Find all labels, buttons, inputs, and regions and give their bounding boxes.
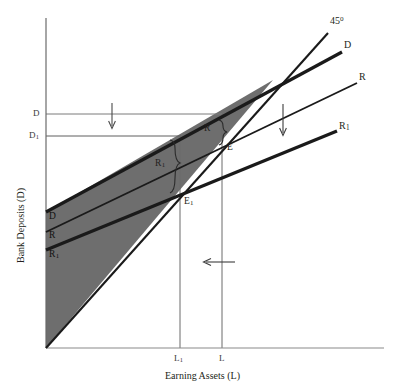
point-label-E-text: E — [227, 142, 233, 152]
brace-label-R1-subscript: 1 — [161, 161, 165, 168]
point-label-E1-text: E — [184, 196, 190, 206]
intercept-label-R1: R1 — [49, 250, 59, 260]
x-tick-L1-text: L — [174, 353, 180, 363]
y-tick-D-text: D — [33, 108, 40, 118]
y-tick-D1: D1 — [29, 131, 39, 141]
x-tick-L1: L1 — [174, 354, 183, 364]
intercept-label-D-text: D — [49, 211, 56, 221]
intercept-label-R-text: R — [49, 230, 55, 240]
arrow-left-horizontal — [204, 259, 236, 266]
point-label-E1: E1 — [184, 197, 194, 207]
brace-label-R: R — [204, 124, 210, 134]
diagram-canvas — [0, 0, 394, 391]
x-tick-L-text: L — [219, 353, 225, 363]
x-tick-L: L — [219, 354, 225, 363]
arrow-down-left — [109, 103, 116, 129]
point-label-E: E — [227, 143, 233, 153]
y-axis-label: Bank Deposits (D) — [16, 188, 26, 263]
line-label-R-text: R — [359, 71, 366, 82]
shaded-region-cone — [46, 80, 273, 348]
intercept-label-R: R — [49, 231, 55, 241]
point-label-E1-subscript: 1 — [190, 199, 194, 206]
line-label-45-degree-sign: o — [340, 15, 344, 23]
line-label-R1-text: R — [339, 120, 346, 131]
y-tick-D: D — [33, 109, 40, 118]
line-label-45-degree: 45o — [330, 16, 344, 26]
line-label-45-text: 45 — [330, 15, 340, 26]
brace-label-R-text: R — [204, 123, 210, 133]
line-label-R: R — [359, 72, 366, 82]
brace-label-R1: R1 — [155, 159, 165, 169]
line-label-R1: R1 — [339, 121, 350, 132]
y-tick-D1-subscript: 1 — [36, 133, 40, 140]
line-label-D-text: D — [344, 39, 351, 50]
x-axis-label: Earning Assets (L) — [165, 371, 240, 381]
line-label-D: D — [344, 40, 351, 50]
x-tick-L1-subscript: 1 — [180, 356, 184, 363]
economics-diagram: Bank Deposits (D) Earning Assets (L) D D… — [0, 0, 394, 391]
intercept-label-R1-subscript: 1 — [55, 252, 59, 259]
line-label-R1-subscript: 1 — [346, 124, 350, 132]
intercept-label-D: D — [49, 212, 56, 222]
y-tick-D1-text: D — [29, 130, 36, 140]
reserve-line-R — [46, 83, 357, 232]
